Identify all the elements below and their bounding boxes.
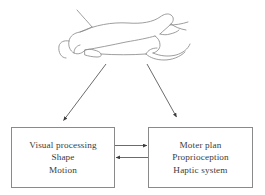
arrow-illustration-to-visual bbox=[64, 64, 107, 121]
figure-canvas: Visual processing Shape Motion Moter pla… bbox=[0, 0, 265, 195]
box-visual-line-1: Visual processing bbox=[29, 139, 97, 151]
box-motor-plan: Moter plan Proprioception Haptic system bbox=[148, 127, 253, 188]
box-visual-line-2: Shape bbox=[51, 151, 74, 163]
two-hands-grasping-object-illustration bbox=[59, 10, 190, 60]
box-motor-line-2: Proprioception bbox=[172, 151, 229, 163]
box-visual-processing: Visual processing Shape Motion bbox=[11, 127, 115, 188]
arrow-illustration-to-motor bbox=[147, 64, 177, 117]
box-visual-line-3: Motion bbox=[49, 164, 77, 176]
box-motor-line-1: Moter plan bbox=[179, 139, 221, 151]
box-motor-line-3: Haptic system bbox=[173, 164, 227, 176]
